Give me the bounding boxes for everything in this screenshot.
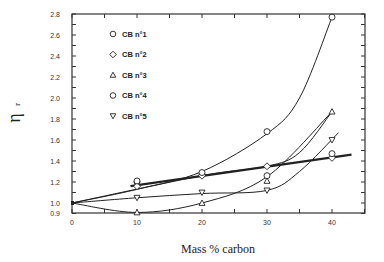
x-tick-label: 20 bbox=[198, 219, 206, 226]
triangle-up-marker-icon bbox=[110, 72, 116, 77]
y-tick-label: 2.0 bbox=[50, 95, 60, 102]
y-axis-ticks: 0.91.01.21.41.61.82.02.22.42.62.8 bbox=[50, 11, 365, 218]
y-tick-label: 1.2 bbox=[50, 179, 60, 186]
diamond-marker-icon bbox=[264, 163, 271, 170]
legend-item: CB n°2 bbox=[110, 50, 147, 59]
legend-label: CB n°1 bbox=[122, 30, 147, 39]
x-tick-label: 10 bbox=[133, 219, 141, 226]
y-tick-label: 2.4 bbox=[50, 53, 60, 60]
y-tick-label: 1.8 bbox=[50, 116, 60, 123]
y-tick-label: 2.8 bbox=[50, 11, 60, 18]
legend-item: CB n°1 bbox=[110, 30, 146, 39]
x-tick-label: 30 bbox=[263, 219, 271, 226]
circle-marker-icon bbox=[264, 129, 270, 135]
circle-marker-icon bbox=[199, 170, 205, 176]
y-axis-title: η r bbox=[4, 103, 24, 123]
y-tick-label: 0.9 bbox=[50, 210, 60, 217]
x-tick-label: 40 bbox=[328, 219, 336, 226]
y-axis-title-sub: r bbox=[12, 103, 22, 106]
triangle-down-marker-icon bbox=[110, 114, 116, 119]
legend: CB n°1CB n°2CB n°3CB n°4CB n°5 bbox=[110, 30, 148, 121]
y-axis-title-main: η bbox=[4, 113, 24, 122]
y-tick-label: 1.4 bbox=[50, 158, 60, 165]
circle-marker-icon bbox=[110, 93, 116, 99]
diamond-marker-icon bbox=[110, 51, 117, 58]
y-tick-label: 2.2 bbox=[50, 74, 60, 81]
y-tick-label: 2.6 bbox=[50, 32, 60, 39]
fit-curve bbox=[72, 112, 332, 203]
legend-label: CB n°2 bbox=[122, 50, 147, 59]
legend-item: CB n°5 bbox=[110, 112, 146, 121]
circle-marker-icon bbox=[329, 14, 335, 20]
legend-item: CB n°4 bbox=[110, 91, 147, 100]
fit-curve bbox=[72, 133, 339, 203]
circle-marker-icon bbox=[264, 173, 270, 179]
triangle-down-marker-icon bbox=[199, 190, 205, 195]
legend-item: CB n°3 bbox=[110, 71, 146, 80]
circle-marker-icon bbox=[110, 31, 116, 37]
circle-marker-icon bbox=[134, 178, 140, 184]
y-tick-label: 1.6 bbox=[50, 137, 60, 144]
legend-label: CB n°4 bbox=[122, 91, 147, 100]
x-tick-label: 0 bbox=[70, 219, 74, 226]
chart: 0.91.01.21.41.61.82.02.22.42.62.8 010203… bbox=[0, 0, 384, 262]
circle-marker-icon bbox=[329, 151, 335, 157]
legend-label: CB n°5 bbox=[122, 112, 147, 121]
triangle-up-marker-icon bbox=[329, 109, 335, 114]
x-axis-title: Mass % carbon bbox=[181, 242, 255, 256]
legend-label: CB n°3 bbox=[122, 71, 147, 80]
y-tick-label: 1.0 bbox=[50, 200, 60, 207]
